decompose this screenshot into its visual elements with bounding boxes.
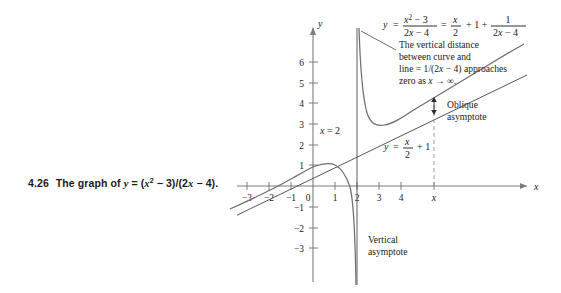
x-tick-label: −1 [286,193,296,203]
x-tick-label: 3 [377,193,382,203]
equation-numerator-2: x [452,14,458,25]
vertical-distance-leader-line [361,31,396,50]
y-tick-label: 3 [299,120,304,130]
vertical-distance-line-2: between curve and [399,51,471,62]
equation-denominator-3: 2x − 4 [493,27,518,38]
line-label-equals: = [393,141,399,152]
x-ticks-group: −3 −2 −1 0 1 2 3 4 x [242,182,437,203]
oblique-asymptote-line [237,75,527,215]
vertical-asymptote-line-2: asymptote [368,246,407,257]
figure-container: 4.26The graph of y = (x2 − 3)/(2x − 4). … [0,0,561,293]
vertical-asymptote-annotation: Vertical asymptote [368,234,407,257]
x-tick-label-variable: x [431,192,437,203]
y-tick-label: 6 [299,58,304,68]
y-ticks-group: 6 5 4 3 2 1 −1 −2 −3 [294,58,318,254]
equation-numerator-1: x2 − 3 [403,14,428,25]
x-axis-label: x [533,181,539,192]
y-tick-label: −1 [294,203,304,213]
oblique-asymptote-line-1: Oblique [447,99,478,110]
equation-numerator-3: 1 [506,14,511,25]
oblique-line-equation-label: y = x 2 + 1 [383,136,430,160]
x-tick-label: 1 [333,193,338,203]
equation-equals-2: = [441,19,447,30]
equation-equals-1: = [393,19,399,30]
y-tick-label: 5 [299,79,304,89]
y-tick-label: 2 [299,141,304,151]
equation-y: y [382,19,388,30]
y-axis-arrow [310,27,316,35]
x-tick-label: 4 [399,193,404,203]
line-label-y: y [383,141,389,152]
vertical-asymptote-line-1: Vertical [368,234,398,245]
x-equals-2-label: x = 2 [319,125,340,136]
y-tick-label: 4 [299,99,304,109]
figure-plot: x y −3 −2 −1 0 1 2 3 4 x 6 [0,0,561,293]
vertical-distance-annotation: The vertical distance between curve and … [361,31,507,86]
vertical-distance-line-3: line = 1/(2x − 4) approaches [399,63,507,75]
oblique-asymptote-line-2: asymptote [447,111,486,122]
equation-group: y = x2 − 3 2x − 4 = x 2 + 1 + 1 2x − 4 [382,14,526,38]
y-axis-label: y [317,18,323,29]
line-label-rest: + 1 [417,141,430,152]
y-tick-label: −2 [294,224,304,234]
gap-double-arrow [431,97,437,115]
y-tick-label: 1 [299,161,304,171]
equation-plus-one: + 1 + [466,19,488,30]
y-tick-label: −3 [294,244,304,254]
x-tick-label-origin: 0 [306,193,311,203]
x-axis-arrow [520,183,527,189]
vertical-distance-line-4: zero as x → ∞. [399,75,456,86]
equation-denominator-2: 2 [453,27,458,38]
vertical-distance-line-1: The vertical distance [399,39,479,50]
line-label-numerator: x [404,136,410,147]
equation-denominator-1: 2x − 4 [404,27,429,38]
line-label-denominator: 2 [405,149,410,160]
oblique-asymptote-annotation: Oblique asymptote [447,99,486,122]
